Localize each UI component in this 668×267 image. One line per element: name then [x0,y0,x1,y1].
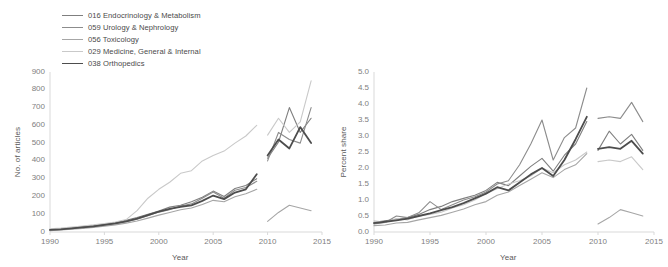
x-tick-label: 2010 [252,237,284,246]
x-tick-label: 1990 [34,237,66,246]
y-tick-label: 700 [32,102,45,111]
series-line [50,174,257,230]
y-tick-label: 500 [32,138,45,147]
y-tick-label: 3.5 [358,115,369,124]
x-tick-label: 2010 [582,237,614,246]
series-line [374,154,587,226]
y-tick-label: 200 [32,191,45,200]
y-tick-label: 900 [32,67,45,76]
x-tick-label: 2000 [470,237,502,246]
y-axis-title-share: Percent share [339,126,348,177]
x-tick-label: 2000 [143,237,175,246]
legend-line-swatch [62,63,83,64]
y-tick-label: 0 [41,227,45,236]
y-tick-label: 1.5 [358,179,369,188]
series-line [598,157,643,170]
x-axis-title-articles: Year [172,253,189,262]
legend-item: 038 Orthopedics [62,58,201,69]
legend-item-label: 059 Urology & Nephrology [88,22,178,33]
series-line [598,210,643,224]
legend-item: 029 Medicine, General & Internal [62,46,201,57]
y-tick-label: 2.5 [358,147,369,156]
series-line [50,179,257,230]
y-tick-label: 100 [32,209,45,218]
series-line [374,152,587,222]
x-tick-label: 1990 [358,237,390,246]
legend-line-swatch [62,15,83,16]
y-tick-label: 4.5 [358,83,369,92]
legend-item: 059 Urology & Nephrology [62,22,201,33]
y-tick-label: 400 [32,155,45,164]
legend-item: 016 Endocrinology & Metabolism [62,10,201,21]
legend-item-label: 016 Endocrinology & Metabolism [88,10,201,21]
legend-line-swatch [62,51,83,52]
y-tick-label: 600 [32,120,45,129]
series-line [598,141,643,154]
series-line [50,181,257,230]
x-tick-label: 2005 [526,237,558,246]
legend-line-swatch [62,27,83,28]
figure-root: 016 Endocrinology & Metabolism059 Urolog… [0,0,668,267]
y-tick-label: 5.0 [358,67,369,76]
legend-item: 056 Toxicology [62,34,201,45]
series-line [374,117,587,223]
y-tick-label: 0.5 [358,211,369,220]
y-tick-label: 0.0 [358,227,369,236]
y-tick-label: 300 [32,173,45,182]
x-tick-label: 2005 [197,237,229,246]
x-tick-label: 2015 [638,237,668,246]
chart-legend: 016 Endocrinology & Metabolism059 Urolog… [62,10,201,69]
y-axis-title-articles: No. of articles [13,127,22,177]
series-line [268,127,312,155]
legend-line-swatch [62,39,83,40]
y-tick-label: 1.0 [358,195,369,204]
y-tick-label: 800 [32,84,45,93]
legend-item-label: 038 Orthopedics [88,58,144,69]
series-line [598,102,643,121]
chart-panel-share: Percent share Year 0.00.51.01.52.02.53.0… [334,0,668,267]
legend-item-label: 029 Medicine, General & Internal [88,46,201,57]
y-tick-label: 4.0 [358,99,369,108]
line-chart-share [334,0,668,267]
y-tick-label: 2.0 [358,163,369,172]
x-axis-title-share: Year [500,253,517,262]
legend-item-label: 056 Toxicology [88,34,139,45]
x-tick-label: 1995 [414,237,446,246]
series-line [268,205,312,221]
y-tick-label: 3.0 [358,131,369,140]
x-tick-label: 1995 [88,237,120,246]
